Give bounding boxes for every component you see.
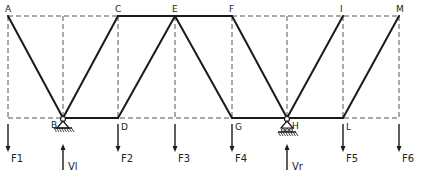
load-label: F6 [402,153,414,164]
truss-members [8,16,399,118]
load-arrow-down-icon [173,124,178,152]
load-label: F2 [121,153,133,164]
node-label-M: M [396,4,404,14]
supports [54,117,298,137]
roller-wheel [282,129,285,132]
node-label-B: B [51,120,57,130]
member-AB [8,16,63,118]
arrow-head [341,146,346,152]
load-arrow-down-icon [341,124,346,152]
loads: F1F2F3F4F5F6VlVr [6,124,415,172]
arrow-head [173,146,178,152]
node-label-H: H [292,121,299,131]
load-label: F4 [235,153,247,164]
load-arrow-down-icon [230,124,235,152]
member-FH [232,16,287,118]
roller-wheel [286,129,289,132]
load-arrow-down-icon [397,124,402,152]
node-label-E: E [172,4,178,14]
member-EG [175,16,232,118]
arrow-head [285,144,290,150]
arrow-head [230,146,235,152]
load-arrow-down-icon [6,124,11,152]
node-label-F: F [229,4,234,14]
node-label-G: G [235,122,242,132]
member-CB [63,16,118,118]
load-label: F5 [346,153,358,164]
node-label-D: D [121,122,128,132]
arrow-head [116,146,121,152]
member-ED [118,16,175,118]
node-label-L: L [346,122,351,132]
ground-hatch [72,128,75,132]
reaction-arrow-up-icon [61,144,66,170]
support-triangle [57,121,69,128]
load-label: F3 [178,153,190,164]
ground-hatch [296,132,299,136]
node-label-C: C [115,4,121,14]
member-IH [287,16,343,118]
reaction-label: Vr [292,161,304,172]
member-ML [343,16,399,118]
load-label: F1 [11,153,23,164]
arrow-head [61,144,66,150]
reaction-arrow-up-icon [285,144,290,170]
node-label-I: I [340,4,343,14]
load-arrow-down-icon [116,124,121,152]
truss-diagram: F1F2F3F4F5F6VlVr ACEFIMBDGHL [0,0,426,188]
reaction-label: Vl [68,161,78,172]
arrow-head [6,146,11,152]
node-label-A: A [5,4,12,14]
arrow-head [397,146,402,152]
